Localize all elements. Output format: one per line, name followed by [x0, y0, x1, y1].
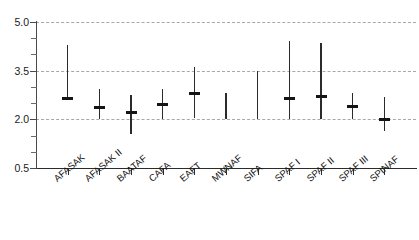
point-estimate-marker [62, 97, 73, 100]
x-tick-spaf-i [289, 169, 290, 175]
point-estimate-marker [94, 106, 105, 109]
range-line [67, 45, 69, 100]
x-tick-eaft [194, 169, 195, 175]
y-minor-tick-4-5 [31, 38, 37, 39]
y-minor-tick-3 [31, 87, 37, 88]
y-axis-label-3-5: 3.5 [1, 66, 29, 77]
gridline-5 [36, 22, 416, 23]
point-estimate-marker [189, 92, 200, 95]
point-estimate-marker [157, 103, 168, 106]
gridline-2 [36, 119, 416, 120]
range-line [289, 41, 291, 119]
y-axis-label-5-0: 5.0 [1, 17, 29, 28]
x-tick-mwnaf [226, 169, 227, 175]
x-tick-spaf-ii [321, 169, 322, 175]
range-line [225, 93, 227, 119]
point-estimate-marker [126, 111, 137, 114]
x-tick-sifa [258, 169, 259, 175]
point-estimate-marker [316, 95, 327, 98]
x-tick-cafa [163, 169, 164, 175]
x-tick-spinaf [384, 169, 385, 175]
x-tick-baataf [131, 169, 132, 175]
range-line [257, 71, 259, 120]
x-tick-spaf-iii [353, 169, 354, 175]
x-tick-afasak [68, 169, 69, 175]
y-minor-tick-2-5 [31, 103, 37, 104]
y-axis-label-0-5: 0.5 [1, 163, 29, 174]
y-axis-label-2-0: 2.0 [1, 114, 29, 125]
range-line [99, 89, 101, 120]
y-tick-2-0 [30, 119, 37, 120]
point-estimate-marker [284, 97, 295, 100]
plot-area [36, 22, 416, 168]
point-estimate-marker [379, 118, 390, 121]
range-line [130, 95, 132, 134]
range-line [384, 97, 386, 131]
y-tick-0-5 [30, 168, 37, 169]
y-minor-tick-1 [31, 152, 37, 153]
interval-plot-chart: 0.52.03.55.0 AFASAKAFASAK IIBAATAFCAFAEA… [0, 0, 419, 240]
x-axis-category-labels: AFASAKAFASAK IIBAATAFCAFAEAFTMWNAFSIFASP… [0, 176, 419, 240]
gridline-3-5 [36, 71, 416, 72]
y-minor-tick-1-5 [31, 136, 37, 137]
x-tick-afasak-ii [99, 169, 100, 175]
range-line [320, 43, 322, 119]
y-minor-tick-4 [31, 54, 37, 55]
y-tick-3-5 [30, 71, 37, 72]
point-estimate-marker [347, 105, 358, 108]
y-tick-5-0 [30, 22, 37, 23]
